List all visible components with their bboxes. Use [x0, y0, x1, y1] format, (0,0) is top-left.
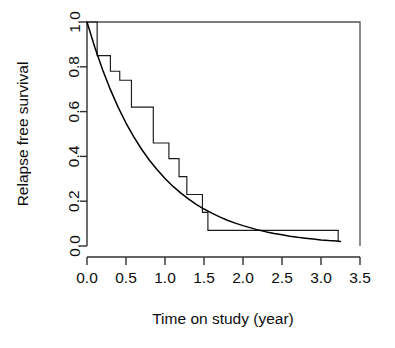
- y-tick-label: 0.6: [66, 101, 83, 123]
- x-tick-label: 2.0: [232, 269, 254, 286]
- x-tick-label: 3.5: [349, 269, 371, 286]
- plot-panel-background: [87, 22, 360, 246]
- y-tick-label: 0.0: [66, 235, 83, 257]
- chart-figure: 0.0 0.2 0.4 0.6 0.8 1.0 0.0 0.5 1.0 1.5 …: [0, 0, 395, 348]
- x-tick-label: 0.0: [76, 269, 98, 286]
- x-tick-label: 0.5: [115, 269, 137, 286]
- x-tick-label: 1.5: [193, 269, 215, 286]
- survival-plot-canvas: 0.0 0.2 0.4 0.6 0.8 1.0 0.0 0.5 1.0 1.5 …: [0, 0, 395, 348]
- y-axis-title: Relapse free survival: [14, 62, 31, 207]
- y-tick-label: 0.8: [66, 56, 83, 78]
- x-axis-title: Time on study (year): [152, 310, 294, 327]
- x-tick-label: 1.0: [154, 269, 176, 286]
- x-axis-ticks: [87, 257, 360, 265]
- y-axis-tick-labels: 0.0 0.2 0.4 0.6 0.8 1.0: [66, 11, 83, 257]
- x-axis-tick-labels: 0.0 0.5 1.0 1.5 2.0 2.5 3.0 3.5: [76, 269, 371, 286]
- x-tick-label: 3.0: [310, 269, 332, 286]
- y-tick-label: 0.4: [66, 145, 83, 167]
- x-tick-label: 2.5: [271, 269, 293, 286]
- y-tick-label: 0.2: [66, 190, 83, 212]
- y-tick-label: 1.0: [66, 11, 83, 33]
